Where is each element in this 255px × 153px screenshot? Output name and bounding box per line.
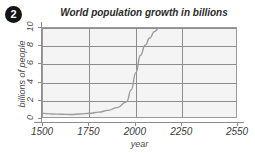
- plot-canvas: [43, 28, 237, 118]
- x-axis-line: [34, 122, 244, 123]
- chart-figure: 2 World population growth in billions 02…: [0, 0, 255, 153]
- y-tick-mark: [38, 45, 42, 46]
- x-tick-label: 2550: [217, 126, 255, 137]
- horizontal-gridlines: [43, 29, 237, 119]
- y-axis-line: [41, 22, 42, 123]
- y-tick-mark: [38, 118, 42, 119]
- y-tick-mark: [38, 82, 42, 83]
- chart-title: World population growth in billions: [38, 7, 250, 18]
- x-axis-label: year: [42, 139, 237, 149]
- y-tick-mark: [38, 27, 42, 28]
- plot-area: [42, 27, 237, 118]
- x-tick-label: 2250: [161, 126, 201, 137]
- x-tick-label: 1500: [22, 126, 62, 137]
- x-tick-label: 2000: [115, 126, 155, 137]
- y-tick-mark: [38, 63, 42, 64]
- question-number-badge: 2: [5, 6, 22, 23]
- y-axis-label: billions of people: [17, 31, 27, 117]
- y-tick-mark: [38, 100, 42, 101]
- x-tick-label: 1750: [68, 126, 108, 137]
